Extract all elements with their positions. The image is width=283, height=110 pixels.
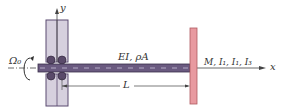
rotation-label: Ω₀ xyxy=(9,56,21,66)
beam xyxy=(38,64,190,72)
y-axis-label: y xyxy=(60,3,66,13)
tip-mass xyxy=(190,28,197,104)
tip-mass-properties-label: M, I₁, I₁, I₃ xyxy=(204,58,252,67)
diagram: y Ω₀ EI, ρA M, I₁, I₁, I₃ x L xyxy=(0,0,283,110)
length-label: L xyxy=(123,80,130,90)
x-axis-label: x xyxy=(270,62,276,72)
beam-properties-label: EI, ρA xyxy=(118,52,149,62)
